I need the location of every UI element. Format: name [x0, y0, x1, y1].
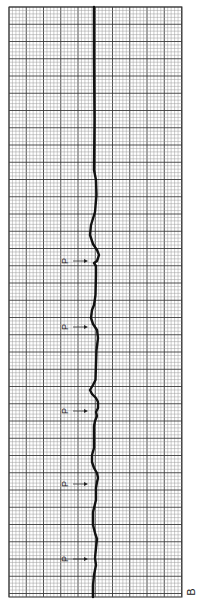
arrow-head-icon — [84, 482, 88, 486]
ecg-strip: PPPPP — [0, 0, 205, 607]
p-wave-label: P — [60, 258, 70, 264]
p-wave-marker: P — [60, 481, 88, 487]
p-wave-label: P — [60, 408, 70, 414]
p-wave-label: P — [60, 481, 70, 487]
arrow-head-icon — [84, 409, 88, 413]
p-wave-label: P — [60, 556, 70, 562]
ecg-trace — [90, 7, 99, 597]
p-wave-marker: P — [60, 324, 88, 330]
p-wave-marker: P — [60, 408, 88, 414]
arrow-head-icon — [84, 325, 88, 329]
arrow-head-icon — [84, 557, 88, 561]
panel-label: B — [185, 588, 197, 595]
p-wave-marker: P — [60, 556, 88, 562]
p-wave-label: P — [60, 324, 70, 330]
